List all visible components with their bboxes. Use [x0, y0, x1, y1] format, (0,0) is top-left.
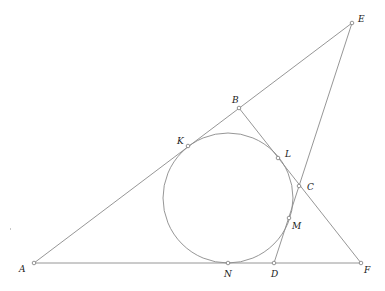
label-c: C	[307, 182, 314, 192]
point-m	[287, 216, 291, 220]
label-d: D	[270, 269, 278, 279]
label-e: E	[357, 14, 365, 24]
label-a: A	[18, 264, 26, 274]
point-b	[237, 106, 241, 110]
label-l: L	[284, 149, 291, 159]
point-f	[359, 261, 363, 265]
point-k	[186, 144, 190, 148]
stray-mark	[10, 228, 11, 230]
labels-group: ABCDEFKLMN	[18, 14, 371, 279]
geometry-diagram: ABCDEFKLMN	[0, 0, 385, 291]
label-k: K	[176, 136, 185, 146]
segments-group	[34, 23, 361, 263]
point-a	[32, 261, 36, 265]
label-f: F	[363, 265, 371, 275]
point-n	[226, 261, 230, 265]
point-l	[276, 156, 280, 160]
point-e	[350, 21, 354, 25]
point-c	[297, 184, 301, 188]
label-n: N	[223, 269, 233, 279]
label-m: M	[291, 221, 302, 231]
point-d	[272, 261, 276, 265]
label-b: B	[231, 95, 239, 105]
